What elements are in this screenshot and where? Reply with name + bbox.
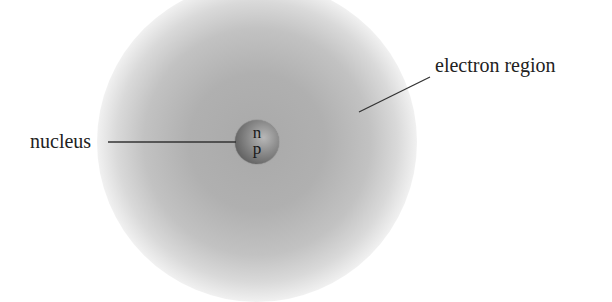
nucleus-label: nucleus [30, 130, 91, 153]
electron-region-leader-line [359, 77, 430, 112]
electron-region-label: electron region [435, 54, 556, 77]
